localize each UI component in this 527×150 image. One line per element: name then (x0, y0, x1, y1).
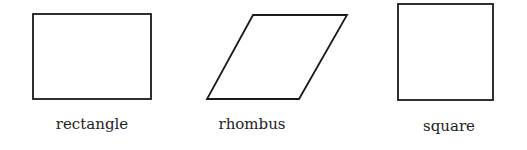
rhombus-shape (207, 15, 347, 99)
shapes-diagram: rectangle rhombus square (0, 0, 527, 150)
rectangle-shape (33, 14, 151, 99)
rectangle-label: rectangle (56, 117, 128, 132)
rhombus-label: rhombus (218, 117, 285, 132)
square-shape (398, 4, 493, 100)
square-label: square (423, 119, 475, 134)
